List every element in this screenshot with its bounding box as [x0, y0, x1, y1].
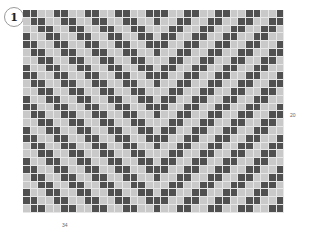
grid-cell	[184, 205, 192, 213]
grid-cell	[277, 10, 285, 18]
grid-cell	[238, 143, 246, 151]
grid-cell	[23, 205, 31, 213]
grid-cell	[38, 189, 46, 197]
grid-cell	[138, 65, 146, 73]
grid-cell	[23, 119, 31, 127]
grid-cell	[231, 80, 239, 88]
grid-cell	[38, 80, 46, 88]
grid-cell	[215, 18, 223, 26]
grid-cell	[38, 143, 46, 151]
grid-cell	[69, 33, 77, 41]
grid-cell	[246, 96, 254, 104]
grid-cell	[238, 57, 246, 65]
grid-cell	[246, 189, 254, 197]
grid-cell	[108, 10, 116, 18]
grid-cell	[115, 26, 123, 34]
grid-cell	[85, 158, 93, 166]
grid-cell	[85, 127, 93, 135]
grid-cell	[61, 96, 69, 104]
grid-cell	[61, 197, 69, 205]
grid-cell	[269, 57, 277, 65]
grid-cell	[23, 18, 31, 26]
grid-cell	[85, 143, 93, 151]
grid-cell	[277, 88, 285, 96]
grid-cell	[215, 189, 223, 197]
grid-cell	[131, 111, 139, 119]
grid-cell	[238, 10, 246, 18]
grid-cell	[154, 189, 162, 197]
grid-cell	[277, 111, 285, 119]
grid-cell	[192, 80, 200, 88]
grid-cell	[169, 197, 177, 205]
grid-cell	[154, 111, 162, 119]
grid-cell	[261, 65, 269, 73]
grid-cell	[146, 205, 154, 213]
grid-cell	[192, 127, 200, 135]
grid-cell	[154, 182, 162, 190]
grid-cell	[146, 41, 154, 49]
grid-cell	[61, 10, 69, 18]
grid-cell	[177, 72, 185, 80]
grid-cell	[46, 205, 54, 213]
grid-cell	[269, 174, 277, 182]
grid-cell	[261, 80, 269, 88]
grid-cell	[46, 143, 54, 151]
grid-cell	[38, 10, 46, 18]
grid-cell	[123, 104, 131, 112]
grid-cell	[77, 104, 85, 112]
grid-cell	[169, 166, 177, 174]
grid-cell	[215, 119, 223, 127]
grid-cell	[208, 158, 216, 166]
grid-cell	[169, 26, 177, 34]
grid-cell	[108, 72, 116, 80]
grid-cell	[31, 18, 39, 26]
grid-cell	[23, 174, 31, 182]
grid-cell	[38, 18, 46, 26]
grid-cell	[138, 158, 146, 166]
grid-cell	[69, 158, 77, 166]
grid-cell	[92, 197, 100, 205]
grid-cell	[184, 166, 192, 174]
grid-cell	[46, 166, 54, 174]
grid-cell	[161, 143, 169, 151]
grid-cell	[100, 174, 108, 182]
grid-cell	[246, 26, 254, 34]
grid-cell	[184, 182, 192, 190]
grid-cell	[238, 33, 246, 41]
grid-cell	[215, 205, 223, 213]
grid-cell	[269, 26, 277, 34]
grid-cell	[123, 80, 131, 88]
grid-cell	[108, 33, 116, 41]
grid-cell	[254, 174, 262, 182]
grid-cell	[92, 143, 100, 151]
grid-cell	[208, 10, 216, 18]
grid-cell	[146, 72, 154, 80]
grid-cell	[246, 205, 254, 213]
grid-cell	[108, 96, 116, 104]
grid-cell	[277, 65, 285, 73]
grid-cell	[54, 72, 62, 80]
grid-cell	[23, 104, 31, 112]
grid-cell	[100, 127, 108, 135]
grid-cell	[108, 150, 116, 158]
grid-cell	[123, 10, 131, 18]
grid-cell	[85, 205, 93, 213]
grid-cell	[169, 96, 177, 104]
grid-cell	[169, 119, 177, 127]
grid-cell	[85, 26, 93, 34]
grid-cell	[77, 135, 85, 143]
grid-cell	[138, 72, 146, 80]
grid-cell	[23, 33, 31, 41]
grid-cell	[169, 143, 177, 151]
grid-cell	[61, 33, 69, 41]
grid-cell	[277, 197, 285, 205]
grid-cell	[131, 150, 139, 158]
grid-cell	[261, 96, 269, 104]
grid-cell	[46, 41, 54, 49]
grid-cell	[184, 96, 192, 104]
grid-cell	[269, 88, 277, 96]
grid-cell	[238, 150, 246, 158]
grid-cell	[69, 80, 77, 88]
grid-cell	[131, 49, 139, 57]
grid-cell	[146, 33, 154, 41]
